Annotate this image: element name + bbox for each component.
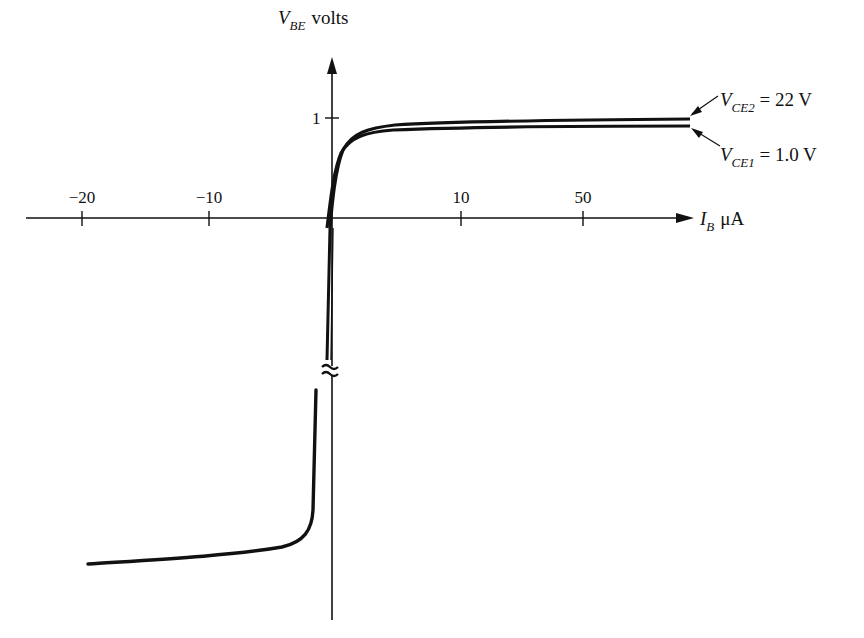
y-axis: 1 VBEvolts bbox=[278, 7, 348, 620]
x-tick-label-minus20: −20 bbox=[69, 188, 96, 207]
x-tick-label-minus10: −10 bbox=[196, 188, 223, 207]
x-axis-arrow-icon bbox=[676, 213, 694, 223]
x-tick-label-10: 10 bbox=[453, 188, 470, 207]
axis-break-icon bbox=[322, 365, 338, 376]
annotation-arrow-icon bbox=[691, 128, 703, 138]
svg-text:VCE2 = 22 V: VCE2 = 22 V bbox=[720, 89, 812, 115]
annotation-arrow-icon bbox=[690, 106, 702, 116]
y-tick-label-1: 1 bbox=[312, 109, 321, 128]
curve-vce1-1v bbox=[327, 126, 690, 228]
x-tick-label-50: 50 bbox=[575, 188, 592, 207]
y-axis-label: VBEvolts bbox=[278, 7, 348, 33]
x-axis-label: IBμA bbox=[699, 208, 744, 234]
svg-text:VCE1 = 1.0 V: VCE1 = 1.0 V bbox=[720, 144, 817, 170]
y-axis-arrow-icon bbox=[327, 57, 337, 74]
x-axis: −20 −10 10 50 IBμA bbox=[26, 188, 744, 234]
curve-vce2-22v bbox=[330, 119, 690, 228]
annotation-vce1: VCE1 = 1.0 V bbox=[691, 128, 817, 170]
vbe-ib-characteristic-figure: 1 VBEvolts −20 −10 10 50 IBμA bbox=[0, 0, 864, 638]
annotation-vce2: VCE2 = 22 V bbox=[690, 89, 812, 116]
curve-reverse-branch bbox=[88, 390, 316, 564]
